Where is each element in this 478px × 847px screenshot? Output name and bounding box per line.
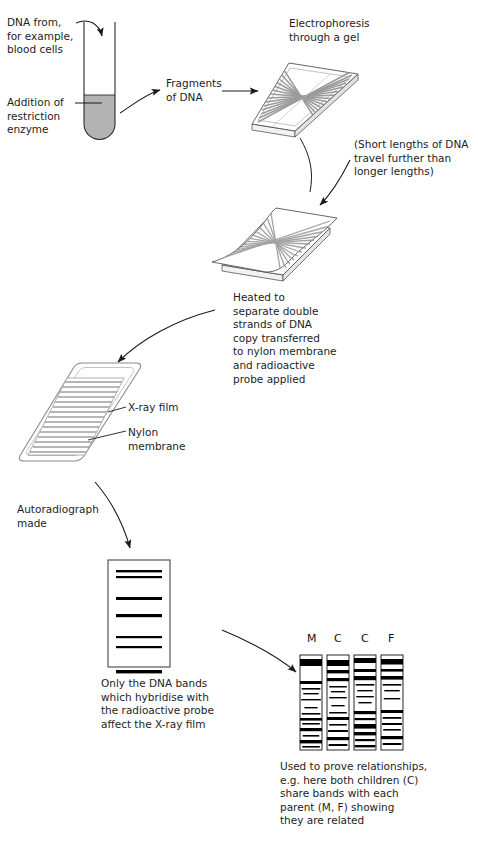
diagram-canvas: DNA from, for example, blood cells Addit… [0, 0, 478, 847]
lane-label-c-1: C [334, 632, 342, 645]
lane-label-c-2: C [361, 632, 369, 645]
lane-label-group: MCCF [0, 0, 478, 847]
lane-label-m-0: M [307, 632, 317, 645]
lane-label-f-3: F [388, 632, 394, 645]
